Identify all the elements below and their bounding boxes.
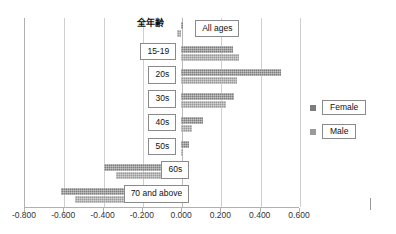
- x-tick-label: 0.600: [288, 210, 309, 220]
- bar-female: [181, 22, 183, 29]
- bar-group: [0, 164, 396, 182]
- category-label-50s: 50s: [148, 138, 176, 156]
- category-label-15-19: 15-19: [140, 43, 176, 61]
- legend-label-male: Male: [322, 124, 356, 140]
- bar-male: [181, 149, 183, 156]
- bar-female: [181, 141, 189, 148]
- category-label-all-ages-jp: 全年齢: [137, 19, 164, 28]
- category-label-20s: 20s: [148, 66, 176, 84]
- bar-female: [181, 46, 233, 53]
- category-label-60s: 60s: [161, 161, 189, 179]
- right-edge-tick: [370, 198, 371, 210]
- bar-female: [181, 117, 203, 124]
- x-tick-label: -0.400: [91, 210, 115, 220]
- legend-swatch-female: [310, 105, 316, 111]
- category-label-70-and-above: 70 and above: [124, 185, 190, 203]
- bar-male: [181, 125, 192, 132]
- x-tick-label: 0.200: [210, 210, 231, 220]
- bar-group: [0, 46, 396, 64]
- bar-female: [181, 69, 280, 76]
- x-tick-label: -0.800: [12, 210, 36, 220]
- category-label-40s: 40s: [148, 114, 176, 132]
- bar-female: [181, 93, 234, 100]
- legend-swatch-male: [310, 129, 316, 135]
- legend-label-female: Female: [322, 100, 366, 116]
- legend-item-female[interactable]: Female: [310, 100, 392, 115]
- category-label-30s: 30s: [148, 90, 176, 108]
- bar-male: [181, 77, 237, 84]
- bar-group: [0, 188, 396, 206]
- x-tick-label: -0.600: [51, 210, 75, 220]
- bar-male: [181, 101, 225, 108]
- bar-male: [177, 30, 181, 37]
- bar-group: [0, 69, 396, 87]
- bar-male: [181, 54, 239, 61]
- bar-chart: -0.800-0.600-0.400-0.2000.0000.2000.4000…: [0, 0, 396, 234]
- legend-item-male[interactable]: Male: [310, 124, 392, 139]
- x-tick-label: 0.400: [249, 210, 270, 220]
- x-tick-label: 0.000: [171, 210, 192, 220]
- x-tick-label: -0.200: [130, 210, 154, 220]
- annotation-all-ages: All ages: [195, 20, 239, 38]
- legend: Female Male: [310, 100, 392, 148]
